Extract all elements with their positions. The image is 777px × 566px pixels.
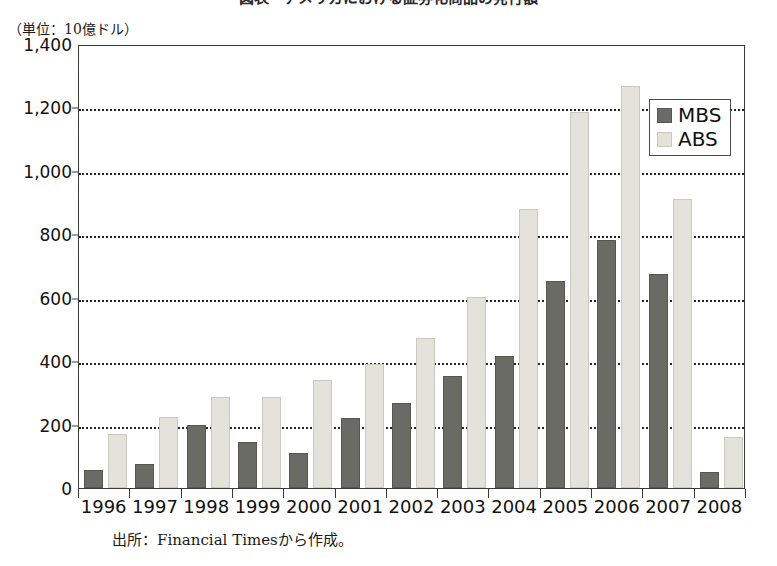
legend-label-abs: ABS: [678, 129, 718, 149]
x-axis-labels: 1996199719981999200020012002200320042005…: [78, 496, 745, 522]
bar-group: [130, 46, 181, 488]
x-axis-label-2007: 2007: [645, 496, 691, 517]
bar-abs-1999[interactable]: [262, 397, 281, 488]
bar-mbs-2006[interactable]: [597, 240, 616, 488]
bar-abs-1996[interactable]: [108, 434, 127, 488]
bar-group: [489, 46, 540, 488]
bar-mbs-2002[interactable]: [392, 403, 411, 488]
legend-item-abs[interactable]: ABS: [657, 129, 721, 149]
bar-mbs-2001[interactable]: [341, 418, 360, 488]
x-axis-label-2000: 2000: [286, 496, 332, 517]
y-axis-tick-label: 600: [0, 289, 72, 309]
bar-abs-1998[interactable]: [211, 397, 230, 488]
x-axis-label-2004: 2004: [491, 496, 537, 517]
bar-abs-2007[interactable]: [673, 199, 692, 488]
bar-abs-2005[interactable]: [570, 112, 589, 488]
x-axis-label-2008: 2008: [696, 496, 742, 517]
bar-abs-2000[interactable]: [313, 380, 332, 488]
x-axis-label-1997: 1997: [132, 496, 178, 517]
plot-area: [78, 45, 745, 489]
x-axis-tick: [745, 489, 746, 498]
bar-abs-2004[interactable]: [519, 209, 538, 489]
legend-item-mbs[interactable]: MBS: [657, 105, 721, 125]
bar-abs-2008[interactable]: [724, 437, 743, 488]
bar-abs-2006[interactable]: [621, 86, 640, 488]
bar-group: [284, 46, 335, 488]
bar-group: [79, 46, 130, 488]
bar-abs-2003[interactable]: [467, 297, 486, 488]
bar-mbs-2000[interactable]: [289, 453, 308, 488]
legend-swatch-abs-icon: [657, 132, 672, 147]
x-axis-label-2001: 2001: [337, 496, 383, 517]
bar-group: [182, 46, 233, 488]
bar-mbs-2005[interactable]: [546, 281, 565, 488]
x-axis-label-1998: 1998: [183, 496, 229, 517]
y-axis-tick-label: 800: [0, 225, 72, 245]
y-axis-tick-label: 400: [0, 352, 72, 372]
legend-swatch-mbs-icon: [657, 108, 672, 123]
bar-mbs-1998[interactable]: [187, 425, 206, 488]
y-axis-tick-label: 1,200: [0, 98, 72, 118]
chart-legend: MBS ABS: [649, 99, 731, 156]
y-axis-tick-label: 200: [0, 416, 72, 436]
bar-mbs-2007[interactable]: [649, 274, 668, 488]
bar-group: [541, 46, 592, 488]
bar-mbs-1999[interactable]: [238, 442, 257, 488]
x-axis-label-1999: 1999: [235, 496, 281, 517]
bar-group: [233, 46, 284, 488]
x-axis-label-2003: 2003: [440, 496, 486, 517]
y-axis-tick-label: 1,400: [0, 35, 72, 55]
bar-group: [336, 46, 387, 488]
bar-abs-2001[interactable]: [365, 364, 384, 488]
bar-mbs-2003[interactable]: [443, 376, 462, 488]
bar-group: [438, 46, 489, 488]
bar-mbs-1997[interactable]: [135, 464, 154, 488]
bar-group: [592, 46, 643, 488]
x-axis-label-2005: 2005: [543, 496, 589, 517]
y-axis-tick-label: 1,000: [0, 162, 72, 182]
chart-title: 図表 アメリカにおける証券化商品の発行額: [0, 0, 777, 7]
bar-mbs-1996[interactable]: [84, 470, 103, 488]
bar-group: [387, 46, 438, 488]
bar-mbs-2008[interactable]: [700, 472, 719, 488]
y-axis-tick-label: 0: [0, 479, 72, 499]
x-axis-label-1996: 1996: [81, 496, 127, 517]
bar-abs-2002[interactable]: [416, 338, 435, 488]
bar-abs-1997[interactable]: [159, 417, 178, 488]
x-axis-label-2002: 2002: [389, 496, 435, 517]
bar-mbs-2004[interactable]: [495, 356, 514, 488]
legend-label-mbs: MBS: [678, 105, 721, 125]
source-note: 出所：Financial Timesから作成。: [112, 528, 353, 549]
x-axis-label-2006: 2006: [594, 496, 640, 517]
